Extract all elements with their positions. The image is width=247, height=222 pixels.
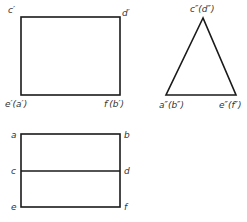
label-c: c [11, 166, 16, 176]
label-e: e [11, 202, 17, 212]
label-f: f [124, 202, 129, 212]
side-view-triangle [166, 18, 236, 95]
label-d-prime: d′ [122, 8, 130, 18]
label-e-dprime-f-dprime: e″(f″) [219, 100, 241, 110]
label-e-prime-a-prime: e′(a′) [5, 99, 27, 109]
front-view-rectangle [21, 17, 120, 95]
label-d: d [124, 166, 130, 176]
top-view: a b c d e f [11, 130, 130, 212]
label-a-dprime-b-dprime: a″(b″) [159, 100, 184, 110]
label-c-dprime-d-dprime: c″(d″) [190, 4, 214, 14]
side-view: c″(d″) a″(b″) e″(f″) [159, 4, 241, 110]
front-view: c′ d′ e′(a′) f′(b′) [5, 5, 130, 109]
label-f-prime-b-prime: f′(b′) [104, 99, 124, 109]
three-view-projection-diagram: c′ d′ e′(a′) f′(b′) c″(d″) a″(b″) e″(f″)… [0, 0, 247, 222]
label-b: b [124, 130, 130, 140]
label-a: a [11, 130, 17, 140]
label-c-prime: c′ [8, 5, 15, 15]
